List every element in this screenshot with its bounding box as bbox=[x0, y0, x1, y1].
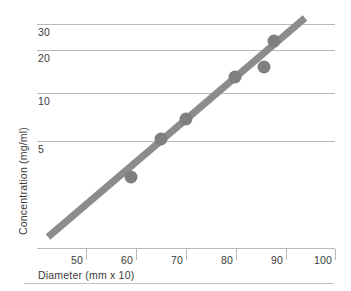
y-axis-title: Concentration (mg/ml) bbox=[17, 106, 29, 256]
xtick-50 bbox=[86, 249, 87, 260]
xtick-label-60: 60 bbox=[110, 254, 133, 266]
xtick-80 bbox=[236, 249, 237, 260]
gridline-20 bbox=[37, 50, 335, 51]
gridline-30 bbox=[37, 24, 335, 25]
xtick-label-80: 80 bbox=[210, 254, 233, 266]
data-point bbox=[155, 133, 168, 146]
xtick-60 bbox=[136, 249, 137, 260]
xtick-90 bbox=[286, 249, 287, 260]
data-point bbox=[229, 71, 242, 84]
data-point bbox=[180, 113, 193, 126]
x-axis-title: Diameter (mm x 10) bbox=[38, 269, 134, 281]
footer-rule bbox=[24, 283, 334, 284]
xtick-label-90: 90 bbox=[260, 254, 283, 266]
plot-area: 30 20 10 5 50 60 70 80 90 100 Diameter (… bbox=[0, 0, 351, 291]
gridline-10 bbox=[37, 93, 335, 94]
xtick-label-100: 100 bbox=[306, 254, 332, 266]
xtick-100 bbox=[335, 249, 336, 260]
xtick-label-70: 70 bbox=[160, 254, 183, 266]
xtick-label-50: 50 bbox=[60, 254, 83, 266]
data-point bbox=[125, 171, 138, 184]
data-point bbox=[268, 35, 281, 48]
chart-figure: 30 20 10 5 50 60 70 80 90 100 Diameter (… bbox=[0, 0, 351, 291]
xtick-70 bbox=[186, 249, 187, 260]
gridline-5 bbox=[37, 141, 335, 142]
ytick-label-5: 5 bbox=[38, 143, 44, 155]
data-point bbox=[258, 61, 271, 74]
ytick-label-30: 30 bbox=[38, 26, 50, 38]
ytick-label-20: 20 bbox=[38, 52, 50, 64]
ytick-label-10: 10 bbox=[38, 95, 50, 107]
